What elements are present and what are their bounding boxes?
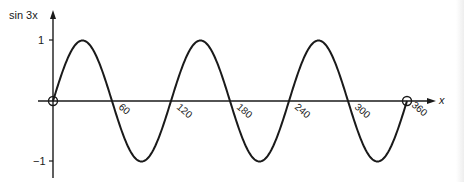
page-edge-shadow xyxy=(456,0,464,182)
x-tick-label-60: 60 xyxy=(117,101,133,117)
y-axis-label: sin 3x xyxy=(9,9,38,21)
x-tick-label-360: 360 xyxy=(410,99,430,118)
x-axis-label: x xyxy=(438,94,445,106)
x-tick-label-240: 240 xyxy=(293,101,313,120)
x-tick-label-180: 180 xyxy=(235,101,255,120)
y-tick-label-1: 1 xyxy=(38,34,44,46)
chart-canvas: sin 3x 1 −1 x 60 120 180 240 300 360 xyxy=(0,0,464,182)
x-tick-label-300: 300 xyxy=(353,101,373,120)
x-tick-label-120: 120 xyxy=(175,101,195,120)
sine-graph-figure: sin 3x 1 −1 x 60 120 180 240 300 360 xyxy=(0,0,464,182)
y-tick-label-neg1: −1 xyxy=(33,155,46,167)
y-axis-arrow-icon xyxy=(50,10,56,19)
x-axis-arrow-icon xyxy=(427,98,436,104)
